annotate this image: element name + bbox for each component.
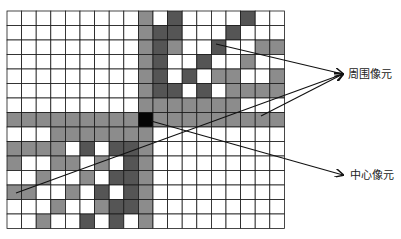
grid-cell bbox=[36, 84, 51, 99]
grid-cell bbox=[124, 11, 139, 26]
grid-cell bbox=[241, 171, 256, 186]
grid-cell bbox=[197, 69, 212, 84]
grid-cell bbox=[226, 11, 241, 26]
grid-cell bbox=[95, 40, 110, 55]
grid-cell bbox=[182, 113, 197, 128]
grid-cell bbox=[51, 156, 66, 171]
grid-cell bbox=[51, 26, 66, 41]
grid-cell bbox=[211, 185, 226, 200]
grid-cell bbox=[197, 11, 212, 26]
grid-cell bbox=[124, 98, 139, 113]
grid-cell bbox=[241, 26, 256, 41]
grid-cell bbox=[153, 200, 168, 215]
grid-cell bbox=[168, 40, 183, 55]
grid-cell bbox=[168, 214, 183, 229]
pixel-grid bbox=[7, 11, 284, 229]
grid-cell bbox=[95, 55, 110, 70]
grid-cell bbox=[182, 127, 197, 142]
grid-cell bbox=[138, 55, 153, 70]
grid-cell bbox=[270, 127, 285, 142]
grid-cell bbox=[241, 69, 256, 84]
grid-cell bbox=[241, 55, 256, 70]
grid-cell bbox=[7, 98, 22, 113]
grid-cell bbox=[109, 69, 124, 84]
grid-cell bbox=[255, 40, 270, 55]
grid-cell bbox=[65, 185, 80, 200]
grid-cell bbox=[80, 200, 95, 215]
grid-cell bbox=[80, 142, 95, 157]
grid-cell bbox=[255, 26, 270, 41]
grid-cell bbox=[95, 11, 110, 26]
grid-cell bbox=[22, 171, 37, 186]
grid-cell bbox=[7, 26, 22, 41]
grid-cell bbox=[168, 55, 183, 70]
grid-cell bbox=[197, 98, 212, 113]
grid-cell bbox=[36, 98, 51, 113]
grid-cell bbox=[241, 127, 256, 142]
grid-cell bbox=[241, 200, 256, 215]
grid-cell bbox=[211, 11, 226, 26]
grid-cell bbox=[255, 127, 270, 142]
grid-cell bbox=[168, 113, 183, 128]
grid-cell bbox=[80, 156, 95, 171]
grid-cell bbox=[153, 127, 168, 142]
grid-cell bbox=[124, 127, 139, 142]
grid-cell bbox=[138, 156, 153, 171]
grid-cell bbox=[80, 55, 95, 70]
grid-cell bbox=[138, 171, 153, 186]
grid-cell bbox=[95, 200, 110, 215]
grid-cell bbox=[211, 98, 226, 113]
grid-cell bbox=[7, 171, 22, 186]
grid-cell bbox=[95, 113, 110, 128]
grid-cell bbox=[36, 11, 51, 26]
grid-cell bbox=[168, 200, 183, 215]
grid-cell bbox=[241, 113, 256, 128]
grid-cell bbox=[36, 185, 51, 200]
grid-cell bbox=[124, 55, 139, 70]
grid-cell bbox=[255, 156, 270, 171]
grid-cell bbox=[241, 156, 256, 171]
grid-cell bbox=[109, 84, 124, 99]
grid-cell bbox=[211, 156, 226, 171]
grid-cell bbox=[109, 214, 124, 229]
grid-cell bbox=[270, 185, 285, 200]
grid-cell bbox=[124, 84, 139, 99]
grid-cell bbox=[7, 156, 22, 171]
grid-cell bbox=[226, 26, 241, 41]
grid-cell bbox=[138, 40, 153, 55]
grid-cell bbox=[182, 40, 197, 55]
grid-cell bbox=[182, 26, 197, 41]
grid-cell bbox=[226, 98, 241, 113]
grid-cell bbox=[197, 55, 212, 70]
grid-cell bbox=[168, 84, 183, 99]
grid-cell bbox=[65, 11, 80, 26]
grid-cell bbox=[109, 55, 124, 70]
grid-cell bbox=[182, 185, 197, 200]
grid-cell bbox=[109, 171, 124, 186]
grid-cell bbox=[197, 142, 212, 157]
grid-cell bbox=[124, 214, 139, 229]
grid-cell bbox=[138, 200, 153, 215]
grid-cell bbox=[80, 214, 95, 229]
grid-cell bbox=[211, 69, 226, 84]
grid-cell bbox=[80, 26, 95, 41]
grid-cell bbox=[7, 113, 22, 128]
grid-cell bbox=[109, 98, 124, 113]
grid-cell bbox=[270, 214, 285, 229]
grid-cell bbox=[211, 127, 226, 142]
grid-cell bbox=[124, 40, 139, 55]
grid-cell bbox=[51, 84, 66, 99]
grid-cell bbox=[153, 84, 168, 99]
grid-cell bbox=[211, 171, 226, 186]
grid-cell bbox=[153, 214, 168, 229]
grid-cell bbox=[255, 171, 270, 186]
grid-cell bbox=[51, 98, 66, 113]
grid-cell bbox=[7, 40, 22, 55]
grid-cell bbox=[51, 185, 66, 200]
grid-cell bbox=[211, 40, 226, 55]
grid-cell bbox=[51, 200, 66, 215]
grid-cell bbox=[80, 127, 95, 142]
grid-cell bbox=[241, 214, 256, 229]
grid-cell bbox=[270, 200, 285, 215]
grid-cell bbox=[65, 200, 80, 215]
